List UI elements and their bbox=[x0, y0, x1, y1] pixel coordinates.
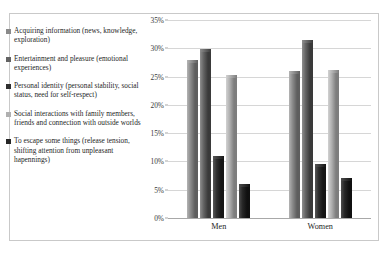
y-tick-label: 15% bbox=[150, 129, 164, 138]
bar-side bbox=[234, 75, 237, 218]
legend-item-label: Acquiring information (news, knowledge, … bbox=[14, 26, 146, 45]
bar-side bbox=[208, 49, 211, 218]
legend-item[interactable]: Acquiring information (news, knowledge, … bbox=[6, 26, 146, 45]
legend-item[interactable]: To escape some things (release tension, … bbox=[6, 136, 146, 164]
bar-face bbox=[187, 63, 195, 218]
bar[interactable] bbox=[289, 71, 300, 218]
bar[interactable] bbox=[315, 164, 326, 218]
bar[interactable] bbox=[341, 178, 352, 218]
legend-item-label: To escape some things (release tension, … bbox=[14, 136, 146, 164]
bar-top bbox=[239, 184, 250, 187]
y-tick-label: 10% bbox=[150, 157, 164, 166]
y-tick-label: 0% bbox=[154, 214, 164, 223]
legend-item-label: Personal identity (personal stability, s… bbox=[14, 81, 146, 100]
bar-group-inner bbox=[187, 20, 250, 218]
bar-face bbox=[289, 74, 297, 218]
bar[interactable] bbox=[226, 75, 237, 218]
bar-face bbox=[226, 78, 234, 218]
bar-face bbox=[200, 52, 208, 218]
legend-swatch-icon bbox=[6, 112, 11, 117]
bar-side bbox=[310, 40, 313, 218]
legend-item[interactable]: Social interactions with family members,… bbox=[6, 109, 146, 128]
bar-side bbox=[297, 71, 300, 218]
bar[interactable] bbox=[187, 60, 198, 218]
legend-item-label: Entertainment and pleasure (emotional ex… bbox=[14, 54, 146, 73]
legend-item[interactable]: Entertainment and pleasure (emotional ex… bbox=[6, 54, 146, 73]
legend-swatch-icon bbox=[6, 139, 11, 144]
x-axis-label: Men bbox=[168, 222, 270, 231]
bar-top bbox=[213, 156, 224, 159]
bar-face bbox=[341, 181, 349, 218]
bar-group bbox=[168, 20, 270, 218]
bar-face bbox=[213, 159, 221, 218]
bar-face bbox=[315, 167, 323, 218]
legend-item[interactable]: Personal identity (personal stability, s… bbox=[6, 81, 146, 100]
bar-group bbox=[270, 20, 372, 218]
bar-face bbox=[239, 187, 247, 218]
legend-item-label: Social interactions with family members,… bbox=[14, 109, 146, 128]
y-tick-label: 30% bbox=[150, 44, 164, 53]
bar-side bbox=[349, 178, 352, 218]
bar-top bbox=[200, 49, 211, 52]
bar-face bbox=[328, 73, 336, 218]
bar-top bbox=[289, 71, 300, 74]
bar-top bbox=[315, 164, 326, 167]
bar-side bbox=[323, 164, 326, 218]
bar-face bbox=[302, 43, 310, 218]
y-tick-label: 20% bbox=[150, 100, 164, 109]
y-tick-label: 35% bbox=[150, 16, 164, 25]
bar-side bbox=[195, 60, 198, 218]
bar-side bbox=[336, 70, 339, 218]
legend-swatch-icon bbox=[6, 29, 11, 34]
chart-legend: Acquiring information (news, knowledge, … bbox=[6, 26, 146, 218]
plot-area: 0%5%10%15%20%25%30%35% bbox=[168, 20, 371, 218]
x-axis-labels: MenWomen bbox=[168, 222, 371, 231]
legend-swatch-icon bbox=[6, 84, 11, 89]
bar-top bbox=[302, 40, 313, 43]
bar[interactable] bbox=[200, 49, 211, 218]
gridline bbox=[168, 218, 371, 219]
bar-side bbox=[221, 156, 224, 218]
bar-group-inner bbox=[289, 20, 352, 218]
bar-top bbox=[328, 70, 339, 73]
y-tick-label: 25% bbox=[150, 72, 164, 81]
bar-top bbox=[226, 75, 237, 78]
bar-side bbox=[247, 184, 250, 218]
x-axis-label: Women bbox=[270, 222, 372, 231]
bar-top bbox=[341, 178, 352, 181]
bar[interactable] bbox=[213, 156, 224, 218]
y-tick-label: 5% bbox=[154, 185, 164, 194]
bar[interactable] bbox=[239, 184, 250, 218]
legend-swatch-icon bbox=[6, 57, 11, 62]
bars-layer bbox=[168, 20, 371, 218]
bar-top bbox=[187, 60, 198, 63]
bar[interactable] bbox=[328, 70, 339, 218]
bar[interactable] bbox=[302, 40, 313, 218]
